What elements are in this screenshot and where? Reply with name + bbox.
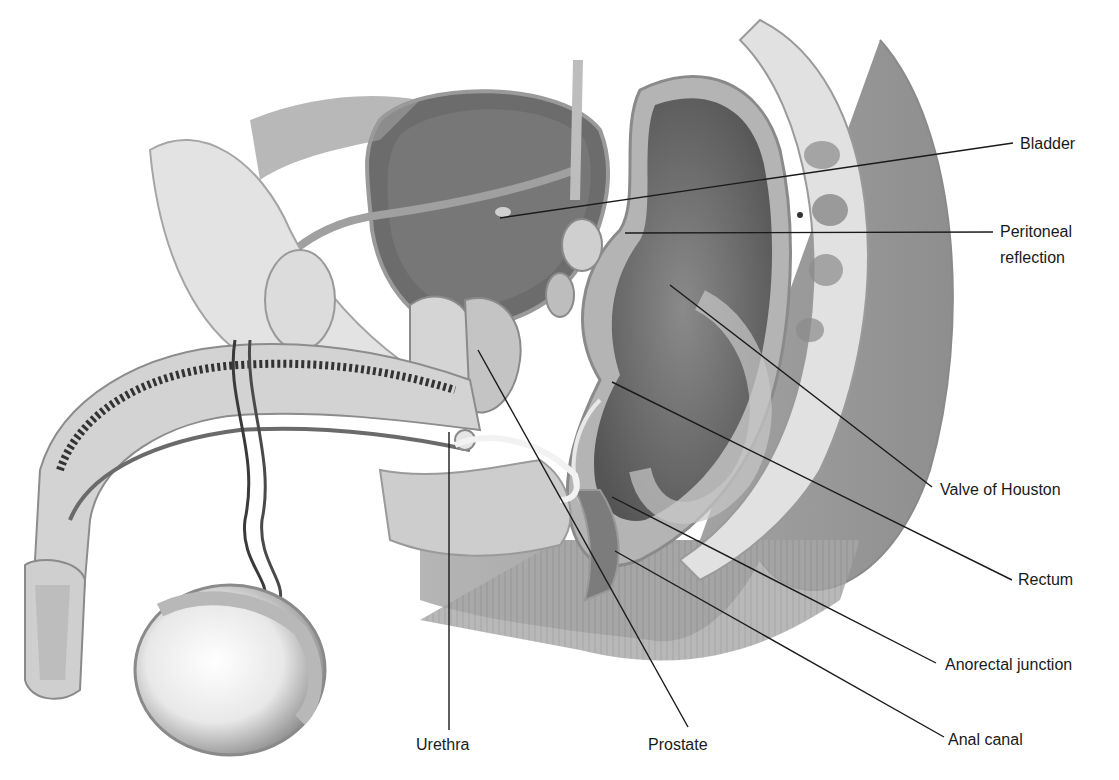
label-urethra: Urethra bbox=[416, 732, 469, 758]
label-anal-canal: Anal canal bbox=[948, 727, 1023, 753]
label-rectum: Rectum bbox=[1018, 567, 1073, 593]
label-bladder: Bladder bbox=[1020, 131, 1075, 157]
label-anorectal-junction: Anorectal junction bbox=[945, 652, 1072, 678]
label-valve-of-houston: Valve of Houston bbox=[940, 477, 1061, 503]
testis bbox=[135, 585, 325, 755]
perineum bbox=[380, 430, 577, 556]
label-peritoneal-line1: Peritoneal bbox=[1000, 219, 1072, 245]
label-prostate: Prostate bbox=[648, 732, 708, 758]
label-peritoneal-reflection: Peritoneal reflection bbox=[1000, 219, 1072, 271]
label-peritoneal-line2: reflection bbox=[1000, 245, 1072, 271]
